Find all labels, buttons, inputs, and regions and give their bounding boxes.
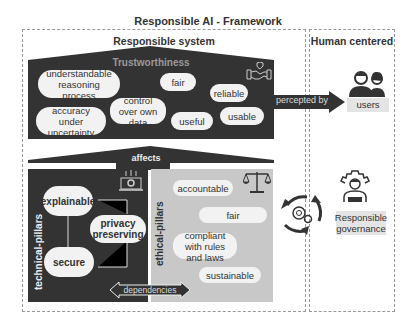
governance-label: Responsible governance bbox=[336, 211, 386, 235]
cycle-gears-icon bbox=[277, 189, 327, 237]
percepted-by-label: percepted by bbox=[276, 95, 328, 105]
human-centered-title: Human centered bbox=[309, 35, 395, 47]
eth-item-sustainable: sustainable bbox=[199, 267, 261, 283]
trust-item-useful: useful bbox=[171, 112, 213, 130]
trust-item-control-data: control over own data bbox=[110, 98, 166, 124]
eth-item-compliant: compliant with rules and laws bbox=[173, 233, 237, 259]
trust-item-usable: usable bbox=[220, 107, 264, 125]
scales-icon bbox=[243, 170, 271, 194]
users-label: users bbox=[347, 98, 389, 112]
affects-label: affects bbox=[116, 153, 176, 163]
trust-item-accuracy: accuracy under uncertainty bbox=[36, 107, 106, 135]
eth-item-accountable: accountable bbox=[173, 180, 233, 196]
trust-item-reliable: reliable bbox=[210, 84, 248, 102]
dependencies-label: dependencies bbox=[119, 285, 181, 295]
eth-item-fair: fair bbox=[199, 207, 267, 223]
governance-person-gear-icon bbox=[337, 167, 373, 203]
trustworthiness-label: Trustworthiness bbox=[28, 57, 274, 68]
framework-title: Responsible AI - Framework bbox=[0, 15, 416, 27]
tech-item-privacy: privacy preserving bbox=[90, 215, 146, 243]
handshake-shield-icon bbox=[246, 62, 272, 82]
trust-item-fair: fair bbox=[160, 73, 196, 91]
tech-item-explainable: explainable bbox=[43, 186, 93, 216]
ethical-pillars-label: ethical-pillars bbox=[154, 202, 165, 266]
users-icon bbox=[347, 69, 391, 97]
tech-item-secure: secure bbox=[44, 247, 94, 277]
trust-item-understandable: understandable reasoning process bbox=[38, 70, 120, 98]
